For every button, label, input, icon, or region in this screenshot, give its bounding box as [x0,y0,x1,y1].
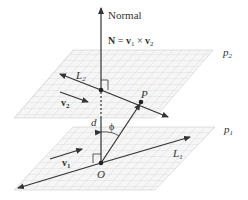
plane-p2-label: p2 [222,46,233,60]
point-O-label: O [97,168,105,180]
point-P [139,100,144,105]
plane-p1-label: p1 [223,123,233,137]
normal-label: Normal [108,9,142,21]
point-P-label: P [140,88,148,100]
point-upper-foot [99,88,104,93]
angle-phi-label: ϕ [109,121,114,132]
distance-d-label: d [91,116,97,128]
point-O [99,161,104,166]
plane-p2 [14,50,213,118]
cross-product-label: N = v1 × v2 [108,35,154,48]
parallel-planes-diagram: Normal N = v1 × v2 p2 p1 L2 L1 v2 v1 P O… [0,0,248,200]
